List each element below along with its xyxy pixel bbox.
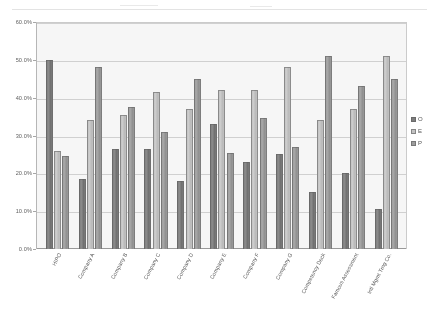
y-axis-tick-label: 0.0% (0, 246, 32, 252)
bar-p (161, 132, 168, 249)
bar-body (358, 86, 365, 249)
bar-body (112, 149, 119, 249)
bar-o (112, 149, 119, 249)
bar-o (144, 149, 151, 249)
y-axis-tick-label: 10.0% (0, 208, 32, 214)
bar-e (120, 115, 127, 249)
bar-group (173, 23, 206, 249)
x-axis-label-cell: Competency Deck (305, 250, 338, 312)
legend-swatch-icon (411, 129, 416, 134)
x-axis-label-cell: Company G (272, 250, 305, 312)
bar-e (186, 109, 193, 249)
bar-body (120, 115, 127, 249)
bar-o (342, 173, 349, 249)
bar-body (161, 132, 168, 249)
x-axis-tick-label: Company G (274, 252, 293, 281)
bar-body (309, 192, 316, 249)
legend-item[interactable]: P (411, 137, 435, 149)
y-axis-tick-label: 50.0% (0, 57, 32, 63)
bar-body (218, 90, 225, 249)
y-axis-tick-label: 30.0% (0, 133, 32, 139)
bar-body (87, 120, 94, 249)
bar-o (243, 162, 250, 249)
bar-p (62, 156, 69, 249)
bar-o (276, 154, 283, 249)
bar-body (243, 162, 250, 249)
bar-group (238, 23, 271, 249)
bar-o (309, 192, 316, 249)
bar-body (292, 147, 299, 249)
bar-e (284, 67, 291, 249)
bar-body (317, 120, 324, 249)
bar-body (153, 92, 160, 249)
bar-body (144, 149, 151, 249)
bar-group (41, 23, 74, 249)
x-axis-tick-label: Company C (142, 252, 161, 280)
bar-p (128, 107, 135, 249)
bar-e (317, 120, 324, 249)
bar-body (350, 109, 357, 249)
legend-label: P (418, 140, 422, 146)
x-axis-tick-label: Intl Mgmt Trng Co. (366, 252, 393, 295)
bar-body (46, 60, 53, 249)
x-axis-tick-label: Company A (76, 252, 95, 280)
x-axis-label-cell: Company F (239, 250, 272, 312)
bar-o (210, 124, 217, 249)
bar-o (46, 60, 53, 249)
bar-e (87, 120, 94, 249)
bar-p (194, 79, 201, 249)
bar-body (210, 124, 217, 249)
bar-e (218, 90, 225, 249)
x-axis-label-cell: Company E (205, 250, 238, 312)
bar-group (337, 23, 370, 249)
bar-body (284, 67, 291, 249)
legend-swatch-icon (411, 117, 416, 122)
bar-group (74, 23, 107, 249)
y-axis-tick-label: 20.0% (0, 170, 32, 176)
scan-artifact-line (12, 9, 427, 10)
x-axis-tick-label: Company E (209, 252, 228, 280)
bar-body (62, 156, 69, 249)
x-axis-tick-label: Competency Deck (300, 252, 326, 294)
bar-group (271, 23, 304, 249)
x-axis-tick-label: Company F (242, 252, 261, 280)
x-axis-tick-label: Company D (175, 252, 194, 280)
bar-body (260, 118, 267, 249)
x-axis-tick-label: Company B (109, 252, 128, 280)
bar-p (227, 153, 234, 249)
chart-legend: OEP (411, 113, 435, 149)
bar-e (383, 56, 390, 249)
x-axis-tick-label: HIPO (50, 252, 62, 267)
bar-body (177, 181, 184, 249)
bar-body (391, 79, 398, 249)
bar-p (358, 86, 365, 249)
bar-body (375, 209, 382, 249)
bar-body (95, 67, 102, 249)
bar-body (342, 173, 349, 249)
bar-chart: 60.0%50.0%40.0%30.0%20.0%10.0%0.0% HIPOC… (0, 0, 437, 312)
x-axis-label-cell: Company B (106, 250, 139, 312)
bar-o (79, 179, 86, 249)
bar-body (186, 109, 193, 249)
bar-group (140, 23, 173, 249)
x-axis-label-cell: Company C (139, 250, 172, 312)
legend-item[interactable]: E (411, 125, 435, 137)
bar-e (54, 151, 61, 249)
scan-speck (250, 6, 272, 7)
bar-body (79, 179, 86, 249)
bar-body (251, 90, 258, 249)
scan-speck (120, 5, 158, 6)
bar-body (54, 151, 61, 249)
legend-swatch-icon (411, 141, 416, 146)
legend-item[interactable]: O (411, 113, 435, 125)
bar-group (107, 23, 140, 249)
plot-area (36, 22, 407, 249)
bar-group (304, 23, 337, 249)
bar-body (383, 56, 390, 249)
bar-body (325, 56, 332, 249)
x-axis-labels: HIPOCompany ACompany BCompany CCompany D… (36, 250, 407, 312)
bar-group (206, 23, 239, 249)
x-axis-label-cell: Intl Mgmt Trng Co. (371, 250, 404, 312)
x-axis-label-cell: Famous Assessment (338, 250, 371, 312)
bar-o (177, 181, 184, 249)
